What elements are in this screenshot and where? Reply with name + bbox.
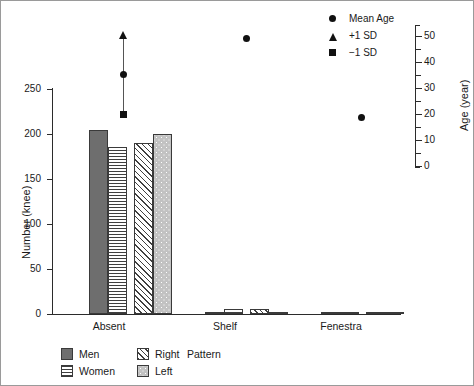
right-axis-minor-tick: [416, 153, 421, 154]
pattern-legend-title: Pattern: [187, 349, 221, 360]
right-axis-tick-label: 20: [424, 109, 435, 119]
right-axis-tick-label: 10: [424, 135, 435, 145]
left-axis-title: Number (knee): [21, 186, 31, 259]
chart-figure: 250 200 150 100 50 0 Number (knee) 50 40…: [0, 0, 474, 386]
square-marker-absent: [120, 111, 127, 118]
left-axis-tick-label: 200: [7, 129, 41, 139]
legend-label-mean-age: Mean Age: [349, 14, 394, 24]
left-axis-tick-label: 250: [7, 84, 41, 94]
right-axis-tick: [416, 88, 422, 89]
right-axis-tick-label: 50: [424, 31, 435, 41]
legend-label-men: Men: [79, 349, 99, 360]
square-marker-icon: [329, 49, 336, 56]
triangle-up-marker-icon: [329, 33, 337, 41]
bar-fenestra-right: [366, 312, 385, 314]
circle-marker-icon: [329, 15, 336, 22]
bar-absent-left: [153, 134, 172, 314]
solid-dark-swatch-icon: [61, 348, 73, 360]
x-axis-category-absent: Absent: [59, 320, 159, 332]
x-axis-category-shelf: Shelf: [175, 320, 275, 332]
bar-shelf-men: [205, 312, 224, 314]
pattern-legend: Men Women Right Left: [61, 347, 301, 381]
right-axis-tick: [416, 114, 422, 115]
bar-shelf-left: [269, 312, 288, 314]
legend-label-minus-1-sd: −1 SD: [349, 48, 377, 58]
legend-label-right: Right: [155, 349, 180, 360]
bar-absent-men: [89, 130, 108, 315]
bar-fenestra-women: [340, 312, 359, 314]
right-axis-tick: [416, 166, 422, 167]
right-axis-minor-tick: [416, 101, 421, 102]
x-axis-line: [52, 314, 401, 315]
right-axis-tick: [416, 140, 422, 141]
circle-marker-shelf: [243, 35, 250, 42]
bar-shelf-women: [224, 309, 243, 314]
right-axis-minor-tick: [416, 127, 421, 128]
bar-absent-right: [134, 143, 153, 314]
bar-fenestra-men: [321, 312, 340, 314]
bar-absent-women: [108, 147, 127, 314]
legend-item-minus-1-sd: −1 SD: [329, 45, 417, 62]
right-axis-title: Age (year): [459, 80, 469, 131]
triangle-up-marker-absent: [119, 31, 127, 39]
legend-label-plus-1-sd: +1 SD: [349, 31, 377, 41]
bar-fenestra-left: [385, 312, 404, 314]
left-axis-tick-label: 50: [7, 264, 41, 274]
dotted-light-swatch-icon: [137, 365, 149, 377]
right-axis-tick-label: 40: [424, 57, 435, 67]
left-axis-tick: [47, 314, 53, 315]
x-axis-category-fenestra: Fenestra: [291, 320, 391, 332]
horizontal-lines-swatch-icon: [61, 365, 73, 377]
right-axis-tick-label: 30: [424, 83, 435, 93]
right-axis-cap-bottom: [415, 167, 420, 168]
legend-label-women: Women: [79, 366, 115, 377]
age-legend: Mean Age +1 SD −1 SD: [329, 11, 417, 62]
plot-area: [53, 89, 401, 314]
right-axis-tick: [416, 62, 422, 63]
right-axis-minor-tick: [416, 75, 421, 76]
legend-item-plus-1-sd: +1 SD: [329, 28, 417, 45]
bar-shelf-right: [250, 309, 269, 314]
diagonal-hatch-swatch-icon: [137, 348, 149, 360]
left-axis-tick-label: 0: [7, 309, 41, 319]
circle-marker-fenestra: [358, 114, 365, 121]
legend-label-left: Left: [155, 366, 173, 377]
left-axis-tick-label: 150: [7, 174, 41, 184]
right-axis-tick-label: 0: [424, 161, 430, 171]
legend-item-mean-age: Mean Age: [329, 11, 417, 28]
circle-marker-absent: [120, 71, 127, 78]
